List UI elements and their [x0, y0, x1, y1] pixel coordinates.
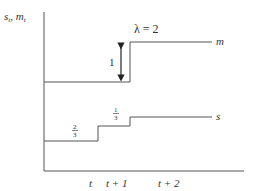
diagram-canvas: st, mt m 1 λ = 2 s 2 3 1 3 t t + 1 t + 2 — [0, 0, 259, 191]
fraction-two-thirds: 2 3 — [72, 123, 78, 139]
parameter-label: λ = 2 — [134, 22, 159, 36]
x-tick-t-plus-1: t + 1 — [106, 177, 127, 189]
x-tick-t: t — [89, 177, 93, 189]
svg-text:3: 3 — [114, 114, 118, 122]
m-series-label: m — [216, 35, 224, 47]
s-series-label: s — [216, 110, 220, 122]
s-series-line — [44, 117, 212, 141]
x-tick-t-plus-2: t + 2 — [158, 177, 180, 189]
svg-text:2: 2 — [73, 123, 77, 131]
jump-label: 1 — [109, 56, 115, 68]
svg-text:3: 3 — [73, 131, 77, 139]
fraction-one-third: 1 3 — [113, 106, 119, 122]
y-axis-label: st, mt — [4, 10, 27, 24]
svg-text:1: 1 — [114, 106, 118, 114]
m-series-line — [44, 42, 212, 82]
